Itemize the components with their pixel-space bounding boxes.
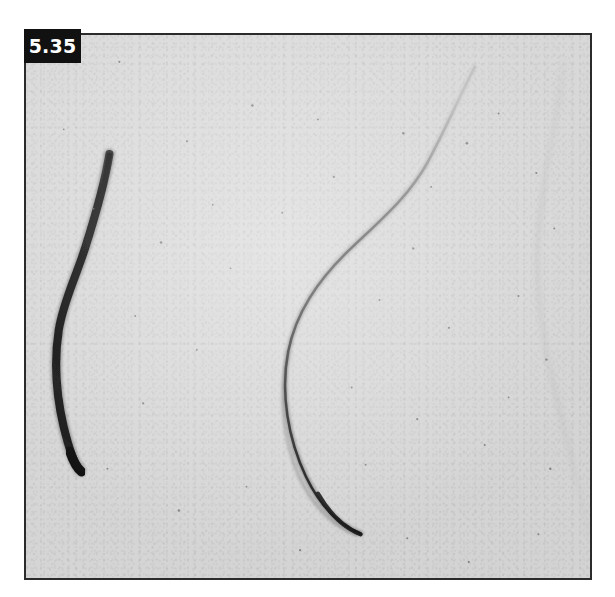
dust-speck [535, 172, 537, 174]
dust-speck [468, 561, 470, 563]
dust-speck [508, 396, 510, 398]
dust-speck [142, 402, 144, 404]
dust-speck [196, 349, 198, 351]
dust-speck [246, 486, 248, 488]
dust-speck [178, 509, 180, 511]
dust-speck [365, 464, 367, 466]
dust-speck [466, 142, 469, 145]
right-faint-fiber [538, 60, 588, 535]
dust-speck [230, 267, 232, 269]
dust-speck [186, 140, 188, 142]
figure-number-text: 5.35 [29, 37, 77, 56]
dust-speck [448, 327, 450, 329]
dust-speck [281, 212, 283, 214]
fiber-specimens-layer [26, 35, 590, 578]
dust-speck [106, 468, 108, 470]
dust-specks-layer [63, 61, 555, 563]
dust-speck [134, 315, 136, 317]
dust-speck [333, 176, 335, 178]
dust-speck [251, 104, 253, 106]
dust-speck [484, 444, 486, 446]
dust-speck [412, 247, 414, 249]
dust-speck [299, 549, 301, 551]
dust-speck [545, 358, 547, 360]
dust-speck [537, 533, 539, 535]
dust-speck [118, 61, 120, 63]
dust-speck [518, 295, 520, 297]
dust-speck [553, 228, 555, 230]
dust-speck [406, 537, 408, 539]
dust-speck [93, 208, 95, 210]
dust-speck [212, 204, 214, 206]
dust-speck [317, 118, 319, 120]
micrograph-photo [24, 33, 592, 580]
dust-speck [379, 299, 381, 301]
dust-speck [430, 186, 432, 188]
figure-number-badge: 5.35 [24, 29, 81, 63]
figure-container: 5.35 [0, 0, 615, 597]
dust-speck [498, 112, 500, 114]
dust-speck [351, 386, 353, 388]
dust-speck [63, 128, 65, 130]
dust-speck [416, 418, 418, 420]
dust-speck [160, 241, 163, 244]
dust-speck [549, 468, 551, 470]
left-dark-fiber [56, 154, 109, 472]
dust-speck [402, 132, 404, 134]
